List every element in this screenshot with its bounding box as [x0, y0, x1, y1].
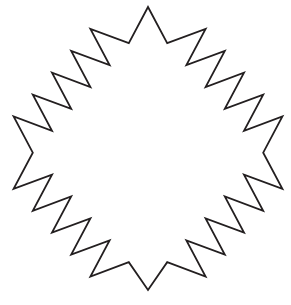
- figure-background: [0, 0, 291, 305]
- koch-snowflake-figure: Koch Snowflake Black line-art outline of…: [0, 0, 291, 305]
- figure-canvas: Koch Snowflake Black line-art outline of…: [0, 0, 291, 305]
